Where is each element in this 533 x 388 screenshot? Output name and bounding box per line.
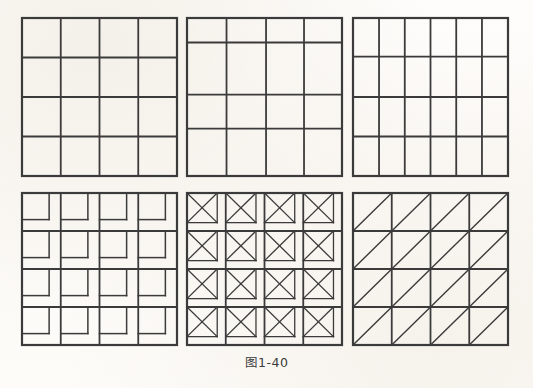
single-diagonal-grid — [353, 193, 508, 345]
cell-diagonal — [353, 307, 392, 345]
figure-caption: 图1-40 — [0, 352, 533, 371]
cell-diagonal — [392, 231, 431, 269]
cell-diagonal — [431, 193, 470, 231]
crossed-square-grid — [187, 193, 342, 345]
nested-square-spiral-grid — [22, 193, 177, 345]
cell-diagonal — [469, 307, 508, 345]
cell-diagonal — [469, 269, 508, 307]
six-column-4-row-grid — [353, 18, 508, 176]
cell-diagonal — [353, 193, 392, 231]
cell-diagonal — [431, 231, 470, 269]
figure-diagram — [0, 0, 533, 388]
cell-diagonal — [353, 269, 392, 307]
panels-layer — [22, 18, 508, 345]
cell-diagonal — [392, 193, 431, 231]
cell-diagonal — [469, 193, 508, 231]
irregular-4x4-grid — [187, 18, 342, 176]
cell-diagonal — [392, 307, 431, 345]
cell-diagonal — [431, 269, 470, 307]
cell-diagonal — [431, 307, 470, 345]
cell-diagonal — [353, 231, 392, 269]
cell-diagonal — [469, 231, 508, 269]
uniform-4x4-grid — [22, 18, 177, 176]
cell-diagonal — [392, 269, 431, 307]
